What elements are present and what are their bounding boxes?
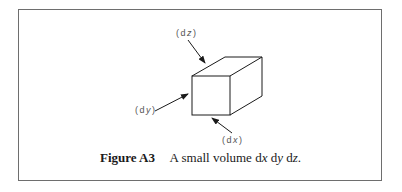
- figure-caption: Figure A3 A small volume dx dy dz.: [100, 150, 301, 166]
- arrows: [155, 40, 232, 133]
- label-dx: (dx): [222, 135, 244, 145]
- arrow-dz: [188, 40, 205, 63]
- caption-dz: dz: [283, 150, 298, 165]
- caption-dy: dy: [271, 150, 283, 165]
- arrow-dy: [155, 94, 188, 111]
- cube: [192, 57, 262, 115]
- caption-text: A small volume: [170, 150, 252, 165]
- label-dx-close: ): [239, 135, 244, 145]
- caption-end: .: [298, 150, 301, 165]
- label-dz-close: ): [193, 28, 198, 38]
- cube-right-face: [230, 57, 262, 115]
- label-dy-open: (d: [135, 105, 146, 115]
- arrow-dx: [212, 118, 232, 133]
- label-dx-open: (d: [222, 135, 233, 145]
- caption-dx-var: x: [262, 150, 268, 165]
- figure-number: Figure A3: [100, 150, 155, 165]
- label-dy: (dy): [135, 105, 157, 115]
- label-dz-open: (d: [176, 28, 187, 38]
- label-dy-close: ): [152, 105, 157, 115]
- caption-dx: dx: [255, 150, 267, 165]
- cube-front-face: [192, 76, 230, 115]
- label-dz: (dz): [176, 28, 198, 38]
